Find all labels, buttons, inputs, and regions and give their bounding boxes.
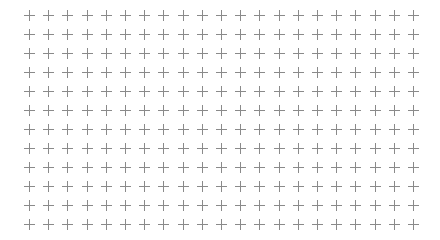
plus-icon [43,29,54,40]
plus-icon [370,143,381,154]
plus-icon [178,181,189,192]
plus-icon [216,48,227,59]
plus-icon [312,10,323,21]
plus-icon [350,200,361,211]
plus-icon [293,143,304,154]
plus-icon [312,86,323,97]
plus-icon [43,105,54,116]
plus-icon [158,86,169,97]
plus-icon [235,29,246,40]
plus-icon [24,219,35,230]
plus-icon [120,86,131,97]
plus-icon [62,10,73,21]
plus-icon [120,29,131,40]
plus-icon [293,67,304,78]
plus-icon [274,181,285,192]
plus-icon [350,143,361,154]
plus-icon [389,162,400,173]
plus-icon [178,162,189,173]
plus-icon [389,10,400,21]
plus-icon [274,200,285,211]
plus-icon [158,143,169,154]
plus-icon [331,143,342,154]
plus-icon [158,219,169,230]
plus-icon [43,48,54,59]
plus-icon [254,86,265,97]
plus-icon [62,86,73,97]
plus-icon [178,86,189,97]
plus-icon [408,48,419,59]
plus-icon [254,10,265,21]
plus-icon [62,67,73,78]
plus-icon [235,105,246,116]
plus-icon [197,29,208,40]
plus-icon [235,143,246,154]
plus-icon [254,67,265,78]
plus-icon [274,162,285,173]
plus-icon [350,219,361,230]
plus-icon [101,86,112,97]
plus-icon [235,162,246,173]
plus-icon [120,143,131,154]
plus-icon [101,10,112,21]
plus-icon [101,29,112,40]
plus-icon [389,67,400,78]
plus-icon [178,48,189,59]
plus-icon [24,181,35,192]
plus-icon [274,10,285,21]
plus-icon [254,219,265,230]
plus-icon [408,10,419,21]
plus-icon [254,124,265,135]
plus-icon [408,29,419,40]
plus-icon [101,105,112,116]
plus-icon [293,181,304,192]
plus-icon [216,219,227,230]
plus-icon [331,67,342,78]
plus-icon [350,124,361,135]
plus-icon [235,10,246,21]
plus-icon [216,181,227,192]
plus-icon [408,181,419,192]
plus-icon [350,105,361,116]
plus-icon [216,29,227,40]
plus-icon [43,219,54,230]
plus-icon [408,67,419,78]
plus-icon [139,86,150,97]
plus-icon [158,105,169,116]
plus-icon [82,105,93,116]
plus-icon [274,219,285,230]
plus-icon [101,162,112,173]
plus-icon [197,86,208,97]
plus-icon [178,200,189,211]
plus-icon [139,10,150,21]
plus-icon [62,105,73,116]
plus-icon [274,105,285,116]
plus-icon [235,86,246,97]
plus-icon [24,10,35,21]
plus-icon [350,10,361,21]
plus-icon [389,181,400,192]
plus-icon [82,143,93,154]
plus-icon [82,29,93,40]
plus-icon [274,48,285,59]
plus-icon [197,219,208,230]
plus-icon [293,29,304,40]
plus-icon [293,200,304,211]
plus-icon [235,181,246,192]
plus-icon [158,124,169,135]
plus-icon [139,200,150,211]
plus-icon [62,143,73,154]
plus-icon [350,48,361,59]
plus-icon [389,219,400,230]
plus-icon [62,219,73,230]
plus-icon [101,48,112,59]
plus-icon [197,48,208,59]
plus-icon [24,200,35,211]
plus-icon [43,162,54,173]
plus-icon [389,86,400,97]
plus-icon [197,10,208,21]
plus-icon [254,143,265,154]
plus-icon [82,10,93,21]
plus-icon [24,162,35,173]
plus-icon [158,200,169,211]
